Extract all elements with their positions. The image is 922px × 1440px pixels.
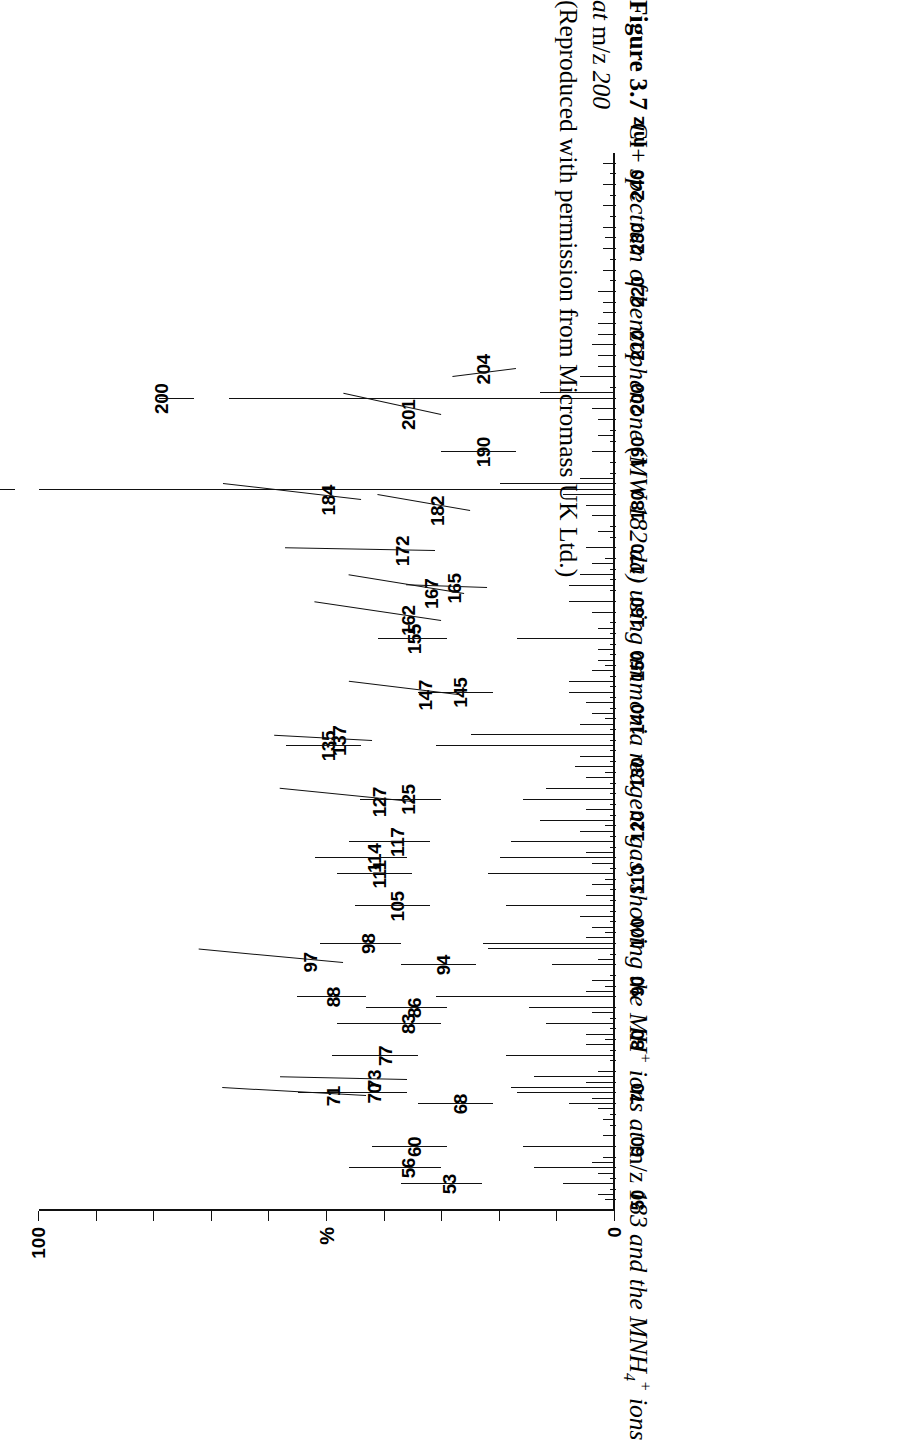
- caption-line-3: (Reproduced with permission from Microma…: [552, 0, 585, 1434]
- y-axis-label-100: 100: [28, 1227, 50, 1259]
- peak-label-leader: [222, 483, 360, 500]
- y-tick: [211, 1211, 212, 1221]
- peak-label-68: 68: [450, 1094, 472, 1114]
- peak-label-leader: [159, 398, 194, 399]
- caption-italic-2: ions at: [624, 1063, 653, 1144]
- peak-label-105: 105: [387, 891, 409, 921]
- caption-italic-4: ions: [624, 1392, 653, 1440]
- peak-label-137: 137: [329, 726, 351, 756]
- peak-label-97: 97: [300, 952, 322, 972]
- y-axis-line: [39, 1209, 615, 1211]
- peak-label-190: 190: [473, 437, 495, 467]
- figure-caption: Figure 3.7 CI+ spectrum of benzophenone …: [552, 0, 655, 1434]
- y-tick: [499, 1211, 500, 1221]
- caption-mz-1: m/z: [624, 1145, 653, 1183]
- caption-ci-plus: CI+: [624, 123, 653, 169]
- peak-label-leader: [314, 857, 406, 858]
- peak-label-leader: [280, 788, 413, 802]
- peak-label-73: 73: [364, 1070, 386, 1090]
- caption-italic-6: 200: [587, 64, 616, 109]
- peak-label-117: 117: [387, 828, 409, 857]
- peak-label-leader: [343, 392, 441, 414]
- caption-mz-2: m/z: [587, 26, 616, 64]
- y-tick: [384, 1211, 385, 1221]
- peak-label-leader: [320, 943, 401, 944]
- caption-italic-3: 183 and the MNH: [624, 1183, 653, 1373]
- peak-label-167: 167: [421, 579, 443, 609]
- peak-label-leader: [372, 1146, 447, 1147]
- caption-line-1: Figure 3.7 CI+ spectrum of benzophenone …: [618, 0, 655, 1434]
- peak-label-182: 182: [427, 496, 449, 526]
- peak-label-53: 53: [439, 1174, 461, 1194]
- mnh4-sub: 4: [621, 1373, 638, 1381]
- y-tick: [38, 1211, 39, 1221]
- peak-label-leader: [338, 1023, 442, 1024]
- y-tick: [326, 1211, 327, 1221]
- y-tick: [268, 1211, 269, 1221]
- mnh4-plus-sup: +: [637, 1381, 654, 1392]
- peak-label-162: 162: [398, 605, 420, 635]
- peak-label-184: 184: [318, 485, 340, 515]
- y-tick: [153, 1211, 154, 1221]
- peak-label-147: 147: [415, 680, 437, 710]
- peak-label-127: 127: [369, 787, 391, 817]
- peak-label-94: 94: [433, 955, 455, 975]
- peak-label-204: 204: [473, 354, 495, 384]
- peak-label-leader: [418, 1103, 493, 1104]
- peak-label-leader: [378, 494, 470, 511]
- y-tick: [96, 1211, 97, 1221]
- y-tick: [441, 1211, 442, 1221]
- caption-italic-5: at: [587, 0, 616, 26]
- mh-plus-sup: +: [637, 1053, 654, 1064]
- peak-label-leader: [0, 489, 15, 490]
- peak-label-165: 165: [444, 573, 466, 603]
- peak-label-201: 201: [398, 400, 420, 430]
- peak-label-88: 88: [323, 987, 345, 1007]
- peak-label-leader: [349, 1167, 441, 1168]
- spectrum-plot-area: 5060708090100110120130140150160170180190…: [39, 153, 615, 1211]
- peak-label-71: 71: [323, 1086, 345, 1106]
- y-axis-label-percent: %: [316, 1227, 339, 1245]
- peak-label-leader: [280, 1076, 407, 1080]
- peak-label-172: 172: [392, 536, 414, 566]
- caption-line-2: at m/z 200: [585, 0, 618, 1434]
- peak-label-77: 77: [375, 1046, 397, 1066]
- peak-label-leader: [366, 1007, 447, 1008]
- peak-label-114: 114: [364, 844, 386, 873]
- caption-italic-1: spectrum of benzophenone (MW 182 da) usi…: [624, 169, 653, 1053]
- peak-label-56: 56: [398, 1158, 420, 1178]
- peak-label-leader: [349, 681, 459, 695]
- figure-label: Figure 3.7: [624, 0, 653, 110]
- peak-label-leader: [332, 1055, 418, 1056]
